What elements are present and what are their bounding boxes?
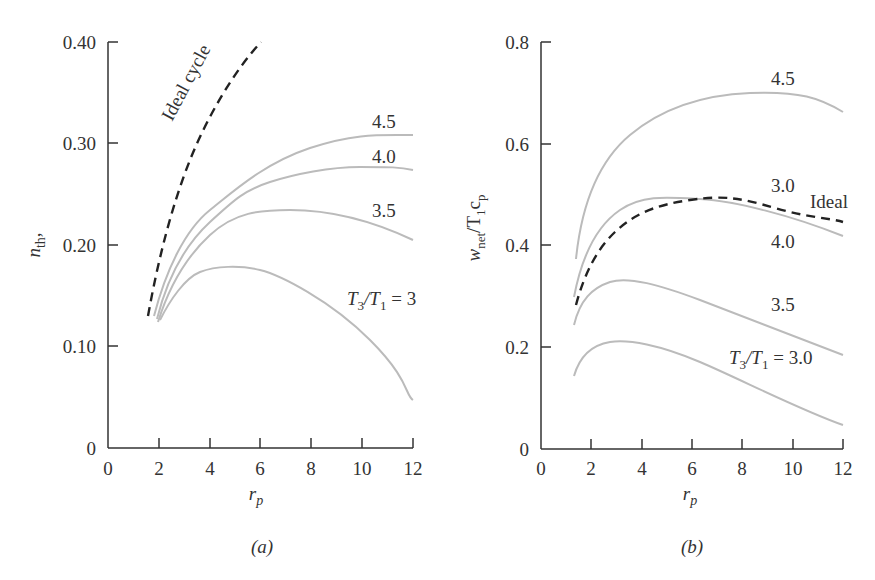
label-ideal-cycle-a: Ideal cycle <box>157 41 214 124</box>
svg-text:0: 0 <box>103 458 113 479</box>
svg-text:10: 10 <box>353 458 372 479</box>
label-t3-t1-a: T3/T1 = 3 <box>347 288 416 313</box>
x-axis-label-a: rp <box>249 483 263 508</box>
caption-b: (b) <box>681 536 703 558</box>
y-axis-label-b: wnet/T1cp <box>463 195 488 262</box>
svg-text:0: 0 <box>87 438 97 459</box>
label-3-5-b: 3.5 <box>771 294 795 315</box>
label-4-5-b: 4.5 <box>771 68 795 89</box>
panel-b: 0.8 0.6 0.4 0.2 0 0 2 4 6 8 10 12 rp wne… <box>463 32 853 558</box>
label-4-0-b: 4.0 <box>771 231 795 252</box>
y-ticks-b <box>541 42 551 347</box>
svg-text:8: 8 <box>737 458 747 479</box>
svg-text:4: 4 <box>637 458 647 479</box>
y-tick-labels-b: 0.8 0.6 0.4 0.2 0 <box>505 32 529 460</box>
svg-text:0: 0 <box>536 458 546 479</box>
svg-text:0.10: 0.10 <box>63 336 96 357</box>
svg-text:0: 0 <box>520 439 530 460</box>
label-t3-t1-b: T3/T1 = 3.0 <box>729 347 812 372</box>
svg-text:0.20: 0.20 <box>63 235 96 256</box>
svg-text:6: 6 <box>255 458 265 479</box>
label-4-0-a: 4.0 <box>372 146 396 167</box>
curve-ideal-cycle-a <box>148 42 261 316</box>
panel-a: 0.40 0.30 0.20 0.10 0 0 2 4 6 8 10 12 rp… <box>23 32 423 558</box>
label-ideal-b: Ideal <box>810 191 848 212</box>
curve-4-5-b <box>576 93 843 259</box>
svg-text:4: 4 <box>205 458 215 479</box>
svg-text:0.2: 0.2 <box>505 337 529 358</box>
label-3-5-a: 3.5 <box>372 200 396 221</box>
figure: 0.40 0.30 0.20 0.10 0 0 2 4 6 8 10 12 rp… <box>0 0 875 580</box>
svg-text:0.30: 0.30 <box>63 133 96 154</box>
x-ticks-b <box>591 439 843 449</box>
x-tick-labels-b: 0 2 4 6 8 10 12 <box>536 458 852 479</box>
x-axis-label-b: rp <box>683 483 697 508</box>
svg-text:0.4: 0.4 <box>505 235 529 256</box>
caption-a: (a) <box>251 536 273 558</box>
svg-text:2: 2 <box>586 458 596 479</box>
svg-text:12: 12 <box>404 458 423 479</box>
svg-text:0.8: 0.8 <box>505 32 529 53</box>
x-tick-labels-a: 0 2 4 6 8 10 12 <box>103 458 422 479</box>
label-3-0-b: 3.0 <box>771 175 795 196</box>
curve-3-0-a <box>160 267 413 400</box>
x-ticks-a <box>159 438 413 448</box>
svg-text:8: 8 <box>306 458 316 479</box>
curve-4-0-b <box>574 198 843 297</box>
svg-text:2: 2 <box>154 458 164 479</box>
svg-text:6: 6 <box>687 458 697 479</box>
svg-text:12: 12 <box>834 458 853 479</box>
y-tick-labels-a: 0.40 0.30 0.20 0.10 0 <box>63 32 96 459</box>
svg-text:10: 10 <box>784 458 803 479</box>
curve-3-5-b <box>574 280 843 355</box>
label-4-5-a: 4.5 <box>372 111 396 132</box>
y-axis-label-a: nth, <box>23 232 48 257</box>
y-ticks-a <box>108 42 118 346</box>
svg-text:0.6: 0.6 <box>505 134 529 155</box>
svg-text:0.40: 0.40 <box>63 32 96 53</box>
